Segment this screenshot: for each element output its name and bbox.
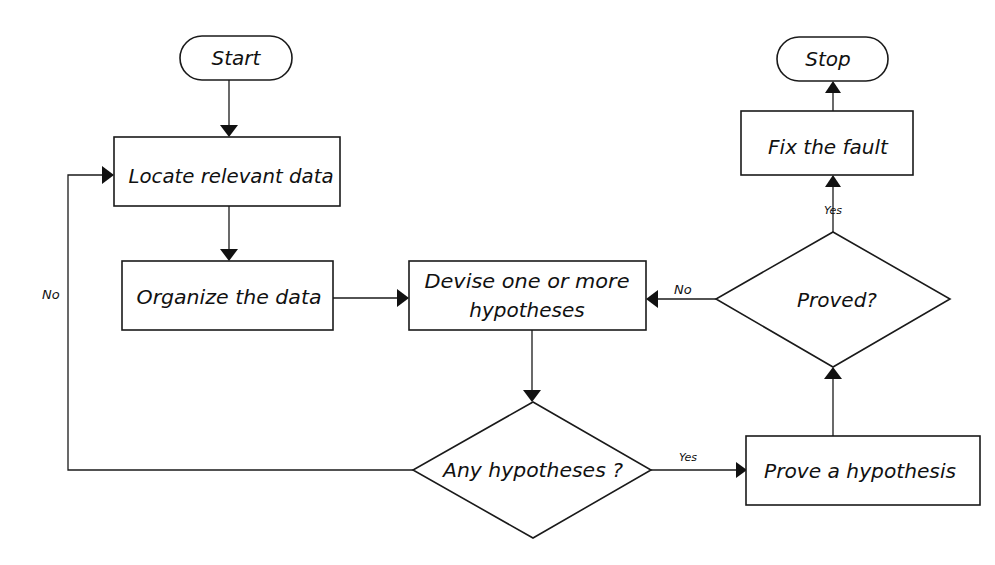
edge-label-any-yes: Yes	[679, 451, 697, 464]
arrow-up-icon	[825, 81, 841, 93]
node-start-label: Start	[212, 46, 262, 70]
node-any-hypotheses-decision: Any hypotheses ?	[413, 402, 651, 538]
node-prove-label: Prove a hypothesis	[764, 459, 956, 483]
edge-label-proved-yes: Yes	[824, 204, 842, 217]
node-start: Start	[180, 36, 292, 80]
node-any-label: Any hypotheses ?	[441, 458, 623, 482]
node-proved-decision: Proved?	[716, 232, 950, 367]
node-organize-the-data: Organize the data	[122, 261, 333, 330]
arrow-left-icon	[646, 290, 658, 308]
node-proved-label: Proved?	[797, 288, 877, 312]
node-devise-label-line2: hypotheses	[469, 298, 584, 322]
arrow-up-icon	[825, 175, 841, 187]
node-organize-label: Organize the data	[137, 285, 322, 309]
arrow-right-icon	[102, 166, 114, 184]
arrow-down-icon	[220, 125, 238, 137]
edge-label-any-no: No	[42, 287, 60, 302]
node-prove-hypothesis: Prove a hypothesis	[746, 436, 980, 505]
node-fix-label: Fix the fault	[768, 135, 889, 159]
node-fix-the-fault: Fix the fault	[741, 111, 913, 175]
flowchart-canvas: Start Locate relevant data Organize the …	[0, 0, 995, 565]
arrow-up-icon	[824, 367, 842, 379]
arrow-down-icon	[523, 390, 541, 402]
node-devise-label-line1: Devise one or more	[425, 269, 630, 293]
node-stop-label: Stop	[805, 47, 850, 71]
node-locate-label: Locate relevant data	[129, 164, 334, 188]
node-stop: Stop	[777, 37, 888, 81]
node-devise-hypotheses: Devise one or more hypotheses	[409, 261, 646, 330]
edge-label-proved-no: No	[674, 282, 692, 297]
node-locate-relevant-data: Locate relevant data	[114, 137, 340, 206]
arrow-down-icon	[220, 249, 238, 261]
arrow-right-icon	[397, 289, 409, 307]
